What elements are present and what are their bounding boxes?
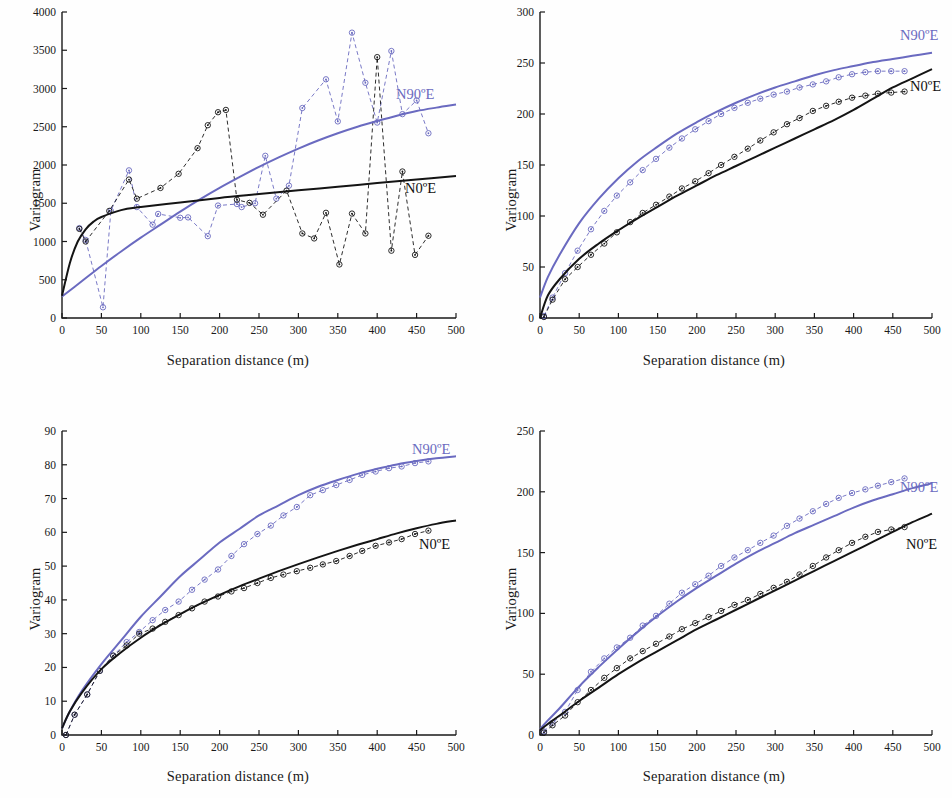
model-curve bbox=[62, 521, 456, 729]
svg-text:50: 50 bbox=[96, 324, 108, 336]
svg-text:50: 50 bbox=[523, 668, 535, 680]
data-point-center bbox=[668, 636, 670, 638]
svg-text:70: 70 bbox=[45, 493, 57, 505]
svg-text:500: 500 bbox=[447, 324, 465, 336]
data-point-center bbox=[264, 155, 266, 157]
data-point-center bbox=[786, 581, 788, 583]
data-point-center bbox=[799, 518, 801, 520]
panel-4-y-axis-label: Variogram bbox=[503, 567, 520, 630]
data-point-center bbox=[616, 647, 618, 649]
panel-4: 0501001502002500501001502002503003504004… bbox=[476, 399, 952, 798]
data-point-center bbox=[590, 671, 592, 673]
svg-text:150: 150 bbox=[649, 741, 667, 753]
data-point-center bbox=[204, 579, 206, 581]
svg-text:0: 0 bbox=[528, 312, 534, 324]
data-point-center bbox=[270, 525, 272, 527]
data-point-center bbox=[603, 243, 605, 245]
svg-text:0: 0 bbox=[59, 324, 65, 336]
data-point-center bbox=[428, 530, 430, 532]
data-point-center bbox=[655, 204, 657, 206]
data-point-center bbox=[152, 224, 154, 226]
data-point-center bbox=[108, 210, 110, 212]
data-point-center bbox=[890, 92, 892, 94]
data-point-center bbox=[78, 228, 80, 230]
svg-text:400: 400 bbox=[845, 741, 863, 753]
svg-text:250: 250 bbox=[517, 425, 535, 437]
data-point-center bbox=[864, 536, 866, 538]
data-point-center bbox=[414, 254, 416, 256]
svg-text:150: 150 bbox=[517, 547, 535, 559]
data-point-center bbox=[126, 645, 128, 647]
data-point-center bbox=[313, 238, 315, 240]
data-point-center bbox=[734, 604, 736, 606]
panel-4-series-label-n0e: N0ºE bbox=[906, 536, 937, 553]
data-point-center bbox=[890, 529, 892, 531]
data-point-center bbox=[388, 467, 390, 469]
data-point-center bbox=[197, 147, 199, 149]
data-point-center bbox=[838, 101, 840, 103]
data-point-center bbox=[720, 565, 722, 567]
data-point-center bbox=[301, 107, 303, 109]
data-point-center bbox=[257, 582, 259, 584]
data-point-center bbox=[590, 689, 592, 691]
panel-2-y-axis-label: Variogram bbox=[503, 168, 520, 231]
svg-text:3500: 3500 bbox=[33, 44, 56, 56]
data-point-center bbox=[590, 228, 592, 230]
data-point-center bbox=[799, 574, 801, 576]
svg-text:30: 30 bbox=[45, 628, 57, 640]
data-point-center bbox=[786, 91, 788, 93]
data-point-center bbox=[668, 196, 670, 198]
panel-1-series-label-n0e: N0ºE bbox=[405, 180, 436, 197]
data-point-center bbox=[178, 601, 180, 603]
svg-text:50: 50 bbox=[573, 324, 585, 336]
data-point-center bbox=[85, 241, 87, 243]
data-point-center bbox=[428, 235, 430, 237]
data-point-center bbox=[309, 494, 311, 496]
data-point-center bbox=[773, 94, 775, 96]
data-point-center bbox=[191, 589, 193, 591]
data-point-center bbox=[904, 91, 906, 93]
data-point-center bbox=[825, 80, 827, 82]
data-point-center bbox=[157, 213, 159, 215]
data-point-center bbox=[759, 98, 761, 100]
svg-text:300: 300 bbox=[767, 324, 785, 336]
model-curve bbox=[540, 69, 932, 318]
data-point-center bbox=[694, 180, 696, 182]
data-point-center bbox=[187, 217, 189, 219]
data-point-center bbox=[178, 173, 180, 175]
experimental-curve bbox=[544, 478, 905, 731]
data-point-center bbox=[759, 140, 761, 142]
data-point-center bbox=[694, 622, 696, 624]
svg-text:150: 150 bbox=[649, 324, 667, 336]
svg-text:200: 200 bbox=[211, 741, 229, 753]
experimental-curve bbox=[544, 92, 905, 317]
data-point-center bbox=[890, 481, 892, 483]
data-point-center bbox=[262, 214, 264, 216]
data-point-center bbox=[351, 213, 353, 215]
data-point-center bbox=[747, 148, 749, 150]
data-point-center bbox=[401, 466, 403, 468]
panel-2-x-axis-label: Separation distance (m) bbox=[476, 352, 952, 369]
data-point-center bbox=[249, 202, 251, 204]
panel-2-series-label-n0e: N0ºE bbox=[910, 78, 941, 95]
svg-text:200: 200 bbox=[517, 108, 535, 120]
data-point-center bbox=[243, 543, 245, 545]
data-point-center bbox=[361, 474, 363, 476]
data-point-center bbox=[603, 677, 605, 679]
svg-text:40: 40 bbox=[45, 594, 57, 606]
data-point-center bbox=[207, 235, 209, 237]
data-point-center bbox=[414, 533, 416, 535]
data-point-center bbox=[388, 542, 390, 544]
data-point-center bbox=[708, 172, 710, 174]
panel-1: 0500100015002000250030003500400005010015… bbox=[0, 0, 476, 399]
svg-text:250: 250 bbox=[517, 57, 535, 69]
data-point-center bbox=[603, 210, 605, 212]
model-curve bbox=[62, 456, 456, 728]
data-point-center bbox=[335, 484, 337, 486]
data-point-center bbox=[877, 70, 879, 72]
data-point-center bbox=[851, 542, 853, 544]
svg-text:250: 250 bbox=[250, 324, 268, 336]
svg-text:200: 200 bbox=[688, 324, 706, 336]
data-point-center bbox=[337, 121, 339, 123]
data-point-center bbox=[102, 306, 104, 308]
